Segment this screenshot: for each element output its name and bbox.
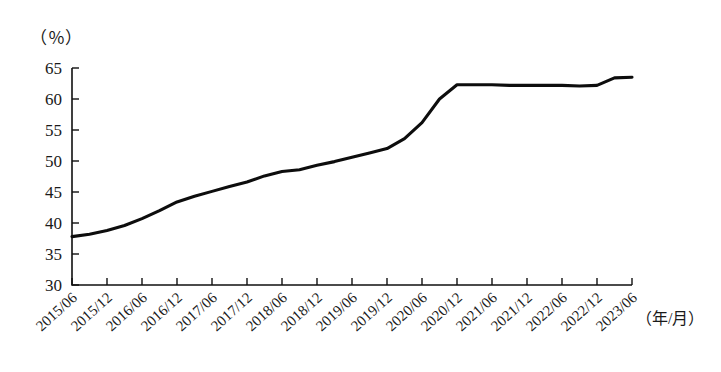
y-axis-tick-label: 55 [45, 121, 62, 140]
y-axis-tick-label: 50 [45, 152, 62, 171]
data-series-line [72, 77, 632, 236]
y-axis-tick-label: 65 [45, 59, 62, 78]
y-axis-tick-label: 45 [45, 183, 62, 202]
y-axis-tick-group: 3035404550556065 [45, 59, 79, 295]
y-axis-tick-label: 40 [45, 214, 62, 233]
line-chart: （％） （年/月） 3035404550556065 2015/062015/1… [0, 0, 721, 372]
axis-lines [72, 68, 632, 285]
y-axis-tick-label: 35 [45, 245, 62, 264]
y-axis-tick-label: 30 [45, 276, 62, 295]
x-axis-tick-group [72, 278, 632, 285]
chart-canvas: 3035404550556065 2015/062015/122016/0620… [0, 0, 721, 372]
y-axis-tick-label: 60 [45, 90, 62, 109]
x-axis-label-group: 2015/062015/122016/062016/122017/062017/… [33, 289, 641, 334]
